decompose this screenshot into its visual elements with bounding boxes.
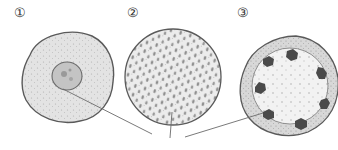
nucleus bbox=[52, 62, 82, 90]
cell-1 bbox=[22, 32, 114, 122]
cell-2 bbox=[125, 29, 221, 125]
cell-diagram bbox=[0, 0, 338, 150]
cell-3 bbox=[240, 36, 338, 136]
